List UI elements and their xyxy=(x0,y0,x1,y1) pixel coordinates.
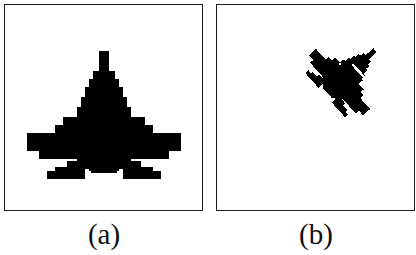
panel-b-frame xyxy=(216,4,415,211)
panel-b: (b) xyxy=(208,0,416,255)
panel-b-caption: (b) xyxy=(212,216,416,252)
aircraft-silhouette-upright-icon xyxy=(23,51,185,179)
panel-a-caption: (a) xyxy=(0,216,208,252)
panel-a-frame xyxy=(4,4,203,211)
figure-container: (a) xyxy=(0,0,416,255)
panel-a-canvas xyxy=(5,5,202,210)
aircraft-silhouette-rotated-icon xyxy=(261,11,411,161)
panel-b-canvas xyxy=(217,5,414,210)
panel-a: (a) xyxy=(0,0,208,255)
